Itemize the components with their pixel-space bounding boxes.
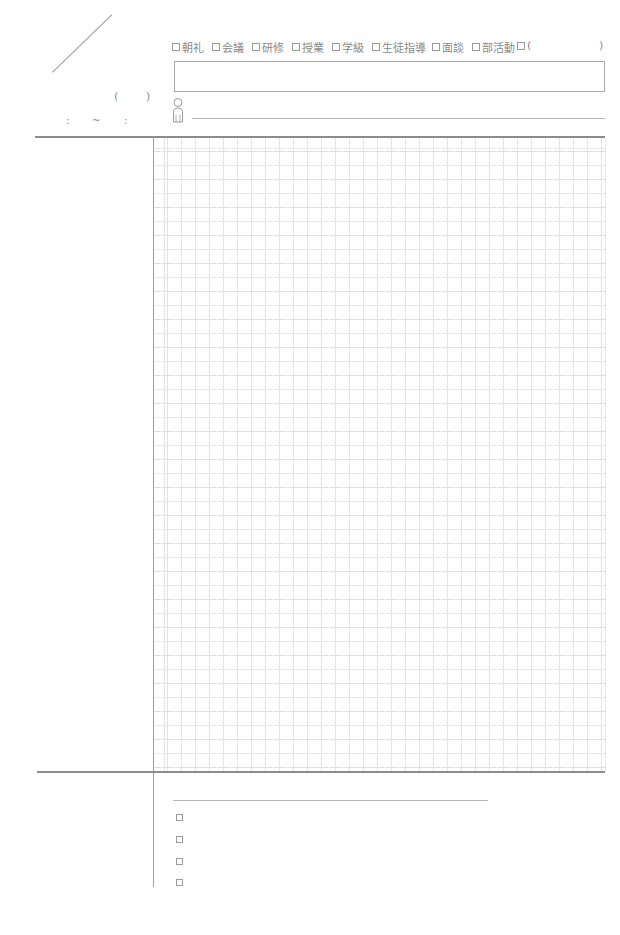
- checkbox-icon[interactable]: [332, 43, 340, 51]
- category-gakkyu[interactable]: 学級: [332, 39, 364, 55]
- todo-checkbox-2[interactable]: [176, 836, 183, 843]
- category-bukatsudo[interactable]: 部活動: [472, 39, 515, 55]
- category-other-close-paren: ): [599, 39, 603, 52]
- category-label: 授業: [302, 39, 324, 55]
- todo-checkbox-3[interactable]: [176, 858, 183, 865]
- weekday-open-paren: (: [114, 90, 118, 103]
- category-label: 朝礼: [182, 39, 204, 55]
- checkbox-icon[interactable]: [252, 43, 260, 51]
- attendee-input-line[interactable]: [192, 118, 605, 119]
- date-slash-divider: [52, 14, 112, 72]
- category-label: 生徒指導: [382, 39, 426, 55]
- person-icon: [172, 98, 184, 123]
- checkbox-icon[interactable]: [517, 42, 525, 50]
- category-seito-shido[interactable]: 生徒指導: [372, 39, 426, 55]
- todo-checkbox-4[interactable]: [176, 879, 183, 886]
- title-input-box[interactable]: [174, 61, 605, 92]
- category-jugyo[interactable]: 授業: [292, 39, 324, 55]
- category-other[interactable]: (: [517, 39, 531, 52]
- category-other-open-paren: (: [527, 39, 531, 52]
- time-end-colon: :: [124, 115, 127, 126]
- category-kaigi[interactable]: 会議: [212, 39, 244, 55]
- category-label: 研修: [262, 39, 284, 55]
- time-start-colon: :: [66, 115, 69, 126]
- checkbox-icon[interactable]: [212, 43, 220, 51]
- bottom-divider-rule: [37, 771, 605, 773]
- category-chorei[interactable]: 朝礼: [172, 39, 204, 55]
- checkbox-icon[interactable]: [292, 43, 300, 51]
- checkbox-icon[interactable]: [172, 43, 180, 51]
- category-label: 部活動: [482, 39, 515, 55]
- todo-heading-line[interactable]: [173, 800, 488, 801]
- time-separator: ~: [92, 115, 100, 126]
- category-label: 面談: [442, 39, 464, 55]
- category-label: 学級: [342, 39, 364, 55]
- checkbox-icon[interactable]: [372, 43, 380, 51]
- checkbox-icon[interactable]: [472, 43, 480, 51]
- category-label: 会議: [222, 39, 244, 55]
- category-kenshu[interactable]: 研修: [252, 39, 284, 55]
- weekday-close-paren: ): [146, 90, 150, 103]
- category-mendan[interactable]: 面談: [432, 39, 464, 55]
- checkbox-icon[interactable]: [432, 43, 440, 51]
- todo-checkbox-1[interactable]: [176, 814, 183, 821]
- notes-grid[interactable]: [154, 138, 606, 771]
